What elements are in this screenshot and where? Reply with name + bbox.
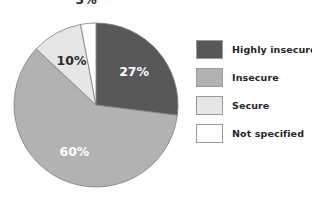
legend-swatch-insecure [196, 68, 223, 87]
legend-item-secure[interactable]: Secure [196, 92, 312, 118]
pie-svg: 27% 60% 10% 3% [0, 0, 196, 202]
legend-label-highly-insecure: Highly insecure [232, 44, 312, 55]
legend-swatch-highly-insecure [196, 40, 223, 59]
legend-item-not-specified[interactable]: Not specified [196, 120, 312, 146]
legend-label-insecure: Insecure [232, 72, 279, 83]
pie-label-not-specified: 3% [76, 0, 98, 7]
legend-label-secure: Secure [232, 100, 269, 111]
pie-plot-area: 27% 60% 10% 3% [0, 0, 196, 202]
legend-swatch-not-specified [196, 124, 223, 143]
pie-label-highly-insecure: 27% [119, 64, 149, 79]
legend-swatch-secure [196, 96, 223, 115]
pie-label-insecure: 60% [59, 144, 89, 159]
legend-item-highly-insecure[interactable]: Highly insecure [196, 36, 312, 62]
pie-slices [14, 23, 178, 187]
legend-label-not-specified: Not specified [232, 128, 304, 139]
pie-chart: 27% 60% 10% 3% Highly insecure Insecure … [0, 0, 312, 202]
pie-label-secure: 10% [57, 53, 87, 68]
legend-item-insecure[interactable]: Insecure [196, 64, 312, 90]
legend: Highly insecure Insecure Secure Not spec… [196, 36, 312, 148]
